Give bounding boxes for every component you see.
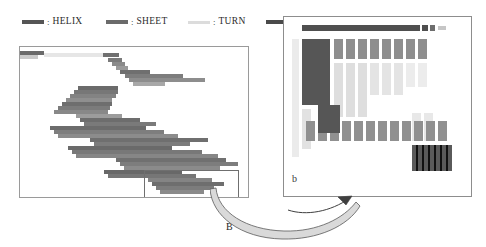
ribbon-body: [210, 188, 360, 239]
consensus-bar: [302, 25, 420, 31]
faint-column: [406, 63, 415, 87]
structure-segment: [133, 82, 165, 86]
alignment-block: [354, 121, 363, 141]
alignment-block: [382, 39, 391, 59]
structure-segment: [44, 53, 106, 57]
alignment-block: [358, 39, 367, 59]
legend-colon: :: [131, 18, 134, 27]
magnified-alignment-detail[interactable]: [283, 16, 472, 197]
faint-column: [292, 39, 299, 157]
alignment-block: [370, 39, 379, 59]
dark-domain-block: [302, 39, 330, 105]
legend-colon: :: [47, 18, 50, 27]
faint-column: [358, 63, 367, 117]
legend-colon: :: [213, 18, 216, 27]
dark-domain-block: [318, 105, 340, 133]
alignment-block: [346, 39, 355, 59]
alignment-block: [414, 121, 423, 141]
alignment-block: [402, 121, 411, 141]
alignment-block: [394, 39, 403, 59]
helix-swatch: [22, 20, 44, 24]
alignment-block: [418, 39, 427, 59]
legend-item-sheet: : SHEET: [106, 14, 168, 30]
alignment-block: [406, 39, 415, 59]
legend-item-turn: : TURN: [188, 14, 246, 30]
alignment-block: [426, 121, 435, 141]
zoom-callout-arrow: [210, 186, 380, 244]
structure-legend: : HELIX : SHEET : TURN : COIL: [22, 14, 282, 30]
faint-column: [394, 63, 403, 95]
legend-label-helix: HELIX: [53, 17, 83, 27]
figure-canvas: : HELIX : SHEET : TURN : COIL B b: [0, 0, 486, 247]
faint-column: [370, 63, 379, 95]
consensus-bar-trail: [438, 26, 446, 30]
alignment-block: [438, 121, 447, 141]
alignment-block: [342, 121, 351, 141]
panel-label-b: b: [292, 173, 297, 184]
alignment-block: [366, 121, 375, 141]
turn-swatch: [188, 21, 210, 24]
alignment-block: [306, 121, 315, 141]
legend-label-turn: TURN: [219, 17, 246, 27]
alignment-block: [390, 121, 399, 141]
consensus-bar-trail: [422, 25, 428, 31]
legend-label-sheet: SHEET: [137, 17, 168, 27]
sheet-swatch: [106, 20, 128, 24]
faint-column: [418, 63, 427, 87]
consensus-bar-trail: [430, 25, 435, 31]
legend-item-helix: : HELIX: [22, 14, 83, 30]
secondary-structure-alignment-overview[interactable]: [19, 46, 249, 198]
faint-column: [346, 63, 355, 117]
faint-column: [382, 63, 391, 95]
structure-segment: [103, 53, 119, 57]
arrow-shaft: [288, 198, 350, 213]
striped-motif-block: [412, 145, 452, 171]
alignment-block: [378, 121, 387, 141]
structure-segment: [20, 55, 38, 59]
alignment-block: [334, 39, 343, 59]
